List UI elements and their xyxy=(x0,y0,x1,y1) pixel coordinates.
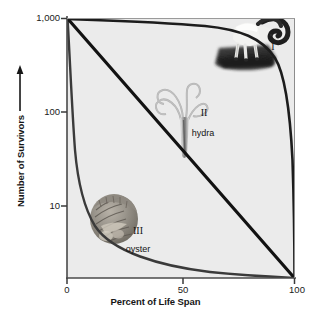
curve-label-type-2-species: hydra xyxy=(176,128,230,138)
curve-label-type-2-roman: II xyxy=(196,107,212,118)
curve-label-type-3-roman: III xyxy=(130,225,146,236)
oyster-image xyxy=(90,194,138,244)
x-axis-ticks xyxy=(67,278,295,284)
y-axis-ticks xyxy=(61,19,67,207)
curve-label-type-3-species: oyster xyxy=(111,244,165,254)
survivorship-curve-figure: Number of Survivors Percent of Life Span… xyxy=(0,0,311,314)
curve-label-type-1-roman: I xyxy=(265,41,281,52)
